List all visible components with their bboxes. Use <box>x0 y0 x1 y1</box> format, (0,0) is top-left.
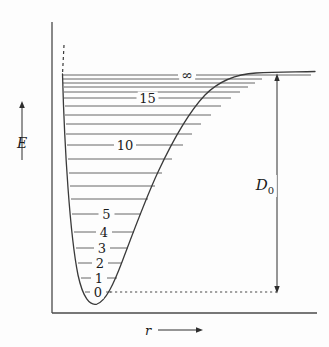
level-label-5: 5 <box>100 208 112 221</box>
level-label-4: 4 <box>98 226 110 239</box>
level-label-3: 3 <box>96 242 108 255</box>
level-label-inf: ∞ <box>179 68 195 82</box>
morse-potential-figure: 0123451015∞ E r D0 <box>0 0 329 347</box>
d0-base: D <box>256 176 268 194</box>
level-label-0: 0 <box>92 286 104 299</box>
energy-axis-arrow <box>19 101 25 160</box>
repulsive-wall-dashed <box>63 45 65 74</box>
level-label-2: 2 <box>94 257 106 270</box>
d0-subscript: 0 <box>268 185 274 196</box>
potential-energy-diagram <box>0 0 329 347</box>
y-axis-label: E <box>17 135 27 151</box>
dissociation-energy-label: D0 <box>253 175 277 197</box>
x-axis-label: r <box>145 323 151 338</box>
level-label-1: 1 <box>93 272 105 285</box>
level-label-10: 10 <box>115 139 136 152</box>
distance-axis-arrow <box>158 327 203 332</box>
level-label-15: 15 <box>137 92 158 105</box>
